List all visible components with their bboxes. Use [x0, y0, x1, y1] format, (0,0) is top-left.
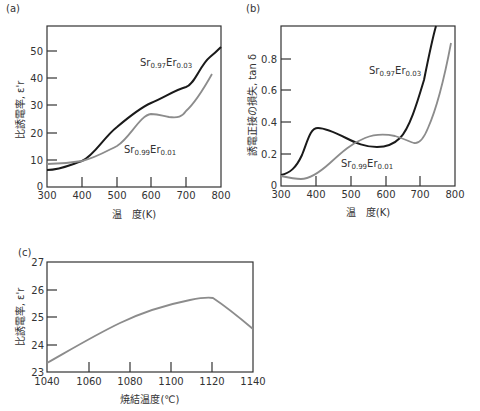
x-tick-label: 1140 — [240, 376, 265, 387]
x-tick-label: 1120 — [199, 376, 224, 387]
panel-label-a: (a) — [6, 3, 20, 14]
x-tick-label: 700 — [410, 189, 429, 200]
chart-panel-a: (a) 0 10 20 30 40 50 300 400 500 600 700 — [6, 3, 231, 220]
x-tick-label: 1040 — [34, 376, 59, 387]
y-tick-label: 40 — [30, 73, 43, 84]
y-tick-label: 20 — [30, 128, 43, 139]
x-axis-label-c: 焼結温度(℃) — [120, 393, 179, 405]
panel-label-b: (b) — [246, 3, 260, 14]
y-tick-label: 0.6 — [261, 85, 277, 96]
plot-frame-c — [47, 262, 253, 372]
x-tick-label: 800 — [445, 189, 464, 200]
x-tick-label: 1100 — [158, 376, 183, 387]
y-axis-label-b: 誘電正接の損失, tan δ — [246, 54, 258, 156]
x-tick-label: 300 — [271, 189, 290, 200]
series-label-sr097-er003: Sr0.97Er0.03 — [369, 65, 421, 78]
chart-panel-b: (b) 0 0.2 0.4 0.6 0.8 300 400 500 600 70… — [246, 3, 465, 218]
x-tick-label: 600 — [141, 190, 160, 201]
series-label-sr099-er001: Sr0.99Er0.01 — [341, 158, 393, 171]
y-axis-label-c: 比誘電率, ε'r — [14, 287, 26, 347]
x-tick-label: 1060 — [76, 376, 101, 387]
x-axis-a: 300 400 500 600 700 800 — [37, 177, 230, 201]
x-tick-label: 500 — [107, 190, 126, 201]
x-axis-label-a: 温 度(K) — [112, 208, 156, 220]
panel-label-c: (c) — [18, 247, 31, 258]
series-label-sr099-er001: Sr0.99Er0.01 — [124, 144, 176, 157]
y-tick-label: 26 — [31, 285, 44, 296]
y-tick-label: 30 — [30, 100, 43, 111]
x-tick-label: 400 — [72, 190, 91, 201]
y-tick-label: 0.4 — [261, 117, 277, 128]
y-axis-label-a: 比誘電率, ε'r — [14, 80, 26, 140]
x-axis-label-b: 温 度(K) — [346, 206, 390, 218]
x-tick-label: 1080 — [117, 376, 142, 387]
x-tick-label: 400 — [306, 189, 325, 200]
y-tick-label: 50 — [30, 46, 43, 57]
x-axis-c: 1040 1060 1080 1100 1120 1140 — [34, 362, 265, 387]
x-tick-label: 600 — [376, 189, 395, 200]
y-tick-label: 25 — [31, 312, 44, 323]
x-tick-label: 700 — [176, 190, 195, 201]
x-tick-label: 500 — [341, 189, 360, 200]
x-tick-label: 800 — [211, 190, 230, 201]
y-tick-label: 10 — [30, 155, 43, 166]
series-label-sr097-er003: Sr0.97Er0.03 — [140, 57, 192, 70]
y-axis-b: 0 0.2 0.4 0.6 0.8 — [261, 54, 291, 191]
series-line-sintering — [47, 298, 253, 363]
y-tick-label: 0.2 — [261, 149, 277, 160]
figure: (a) 0 10 20 30 40 50 300 400 500 600 700 — [0, 0, 480, 411]
chart-panel-c: (c) 23 24 25 26 27 1040 1060 1080 1100 1… — [14, 247, 266, 405]
y-tick-label: 27 — [31, 257, 44, 268]
y-tick-label: 0.8 — [261, 54, 277, 65]
y-tick-label: 24 — [31, 340, 44, 351]
x-tick-label: 300 — [37, 190, 56, 201]
series-line-sr097-er003 — [281, 26, 436, 175]
series-line-sr099-er001 — [281, 43, 451, 179]
